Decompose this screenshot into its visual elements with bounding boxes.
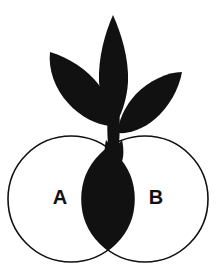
stem-shape — [107, 104, 120, 145]
venn-label-a: A — [53, 186, 67, 208]
venn-sprout-illustration: A B — [0, 0, 216, 269]
venn-label-b: B — [149, 186, 163, 208]
figure-root: A B — [0, 0, 216, 269]
